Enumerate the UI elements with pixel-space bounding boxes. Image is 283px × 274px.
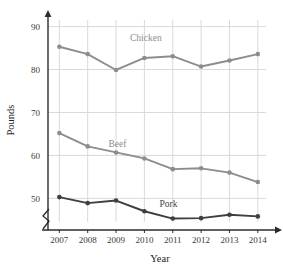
data-point-beef: [57, 131, 62, 136]
x-tick-label: 2008: [79, 235, 98, 245]
y-tick-label: 50: [31, 194, 41, 204]
data-point-beef: [85, 144, 90, 149]
data-point-pork: [142, 209, 147, 214]
series-line-chicken: [59, 47, 257, 70]
data-point-pork: [57, 195, 62, 200]
x-axis-arrow-icon: [275, 227, 282, 234]
line-chart: 5060708090200720082009201020112012201320…: [0, 0, 283, 274]
x-tick-label: 2011: [164, 235, 182, 245]
chart-canvas: 5060708090200720082009201020112012201320…: [0, 0, 283, 274]
data-point-chicken: [142, 56, 147, 61]
data-point-beef: [170, 167, 175, 172]
series-label-beef: Beef: [108, 139, 127, 149]
series-line-beef: [59, 133, 257, 182]
data-point-chicken: [170, 54, 175, 59]
data-point-pork: [170, 216, 175, 221]
gridlines: [48, 20, 266, 222]
y-tick-label: 60: [31, 151, 41, 161]
x-tick-label: 2009: [107, 235, 126, 245]
x-tick-label: 2007: [50, 235, 69, 245]
data-point-beef: [114, 150, 119, 155]
data-point-chicken: [199, 64, 204, 69]
data-point-chicken: [114, 68, 119, 73]
x-tick-label: 2014: [249, 235, 268, 245]
series-label-chicken: Chicken: [130, 33, 162, 43]
y-tick-label: 80: [31, 65, 41, 75]
data-point-pork: [256, 214, 261, 219]
y-axis-arrow-icon: [45, 10, 52, 17]
data-point-beef: [227, 170, 232, 175]
series-label-pork: Pork: [160, 199, 178, 209]
x-tick-label: 2012: [192, 235, 210, 245]
data-point-chicken: [256, 52, 261, 57]
data-point-pork: [199, 216, 204, 221]
data-point-beef: [199, 166, 204, 171]
data-point-beef: [256, 180, 261, 185]
x-axis-title: Year: [150, 253, 170, 264]
data-point-pork: [85, 201, 90, 206]
data-point-chicken: [85, 52, 90, 57]
y-tick-label: 70: [31, 108, 41, 118]
x-tick-label: 2010: [135, 235, 154, 245]
data-point-pork: [227, 212, 232, 217]
data-point-beef: [142, 156, 147, 161]
data-point-chicken: [227, 58, 232, 63]
y-axis-title: Pounds: [5, 105, 16, 136]
y-tick-label: 90: [31, 22, 41, 32]
data-point-chicken: [57, 44, 62, 49]
x-tick-label: 2013: [220, 235, 239, 245]
data-point-pork: [114, 198, 119, 203]
